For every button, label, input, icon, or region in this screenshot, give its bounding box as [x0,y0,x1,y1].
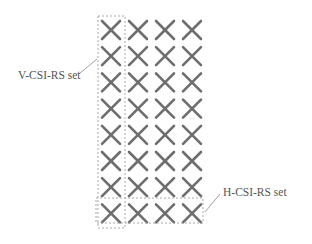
x-mark-icon [183,73,201,91]
diagram-graphics [0,0,312,244]
x-mark-icon [102,152,120,170]
x-mark-icon [156,126,174,144]
x-mark-icon [129,73,147,91]
x-mark-icon [156,178,174,196]
x-mark-icon [129,152,147,170]
x-mark-icon [183,21,201,39]
x-mark-icon [129,47,147,65]
x-mark-icon [129,100,147,118]
antenna-grid [102,21,201,222]
x-mark-icon [156,47,174,65]
x-mark-icon [156,73,174,91]
x-mark-icon [156,204,174,222]
x-mark-icon [183,204,201,222]
x-mark-icon [102,21,120,39]
v-csi-rs-set-label: V-CSI-RS set [18,70,81,82]
x-mark-icon [102,73,120,91]
x-mark-icon [156,100,174,118]
x-mark-icon [183,126,201,144]
x-mark-icon [156,152,174,170]
csi-rs-diagram: V-CSI-RS set H-CSI-RS set [0,0,312,244]
v-set-leader-line [79,59,97,74]
x-mark-icon [102,178,120,196]
x-mark-icon [129,178,147,196]
x-mark-icon [102,100,120,118]
x-mark-icon [129,204,147,222]
x-mark-icon [102,126,120,144]
x-mark-icon [102,204,120,222]
x-mark-icon [183,100,201,118]
x-mark-icon [183,47,201,65]
x-mark-icon [183,178,201,196]
x-mark-icon [183,152,201,170]
x-mark-icon [129,126,147,144]
x-mark-icon [129,21,147,39]
h-csi-rs-set-label: H-CSI-RS set [223,187,287,199]
x-mark-icon [102,47,120,65]
x-mark-icon [156,21,174,39]
h-set-leader-line [205,194,220,212]
